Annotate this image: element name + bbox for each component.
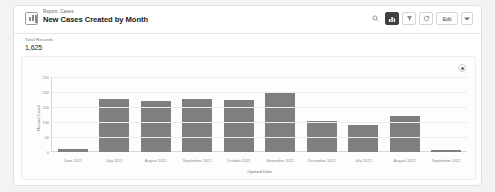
legend-toggle-icon[interactable] — [458, 64, 466, 72]
x-axis-tick-label: December 2021 — [301, 158, 343, 163]
gridline — [52, 122, 467, 123]
y-axis-tick-label: 150 — [43, 105, 50, 110]
chevron-down-icon[interactable] — [461, 12, 473, 25]
bar-cell — [52, 77, 94, 152]
bar-cell — [260, 77, 302, 152]
bar-cell — [426, 77, 468, 152]
bar-cell — [177, 77, 219, 152]
gridline — [52, 92, 467, 93]
header-divider — [14, 33, 481, 34]
gridline — [52, 77, 467, 78]
chart-panel: Record Count 250200150100500 June 2021Ju… — [21, 56, 476, 180]
report-header-actions: Edit — [368, 12, 473, 25]
screenshot-root: Report: Cases New Cases Created by Month — [0, 0, 495, 192]
x-axis-title: Opened Date — [52, 169, 467, 174]
bar[interactable] — [431, 150, 461, 152]
x-axis-tick-label: September 2022 — [426, 158, 468, 163]
title-block: Report: Cases New Cases Created by Month — [43, 10, 148, 24]
y-axis-tick-label: 200 — [43, 90, 50, 95]
total-records-value: 1,625 — [25, 44, 53, 51]
bar[interactable] — [348, 125, 378, 152]
gridline — [52, 137, 467, 138]
y-axis-tick-label: 0 — [47, 150, 49, 155]
bar-cell — [135, 77, 177, 152]
report-card: Report: Cases New Cases Created by Month — [13, 5, 482, 186]
x-axis-tick-label: September 2021 — [177, 158, 219, 163]
x-axis-tick-labels: June 2021July 2021August 2021September 2… — [52, 158, 467, 163]
y-axis-tick-label: 100 — [43, 120, 50, 125]
x-axis-tick-label: July 2021 — [94, 158, 136, 163]
bar[interactable] — [141, 101, 171, 152]
bar-cell — [218, 77, 260, 152]
bar[interactable] — [224, 100, 254, 152]
x-axis-tick-label: August 2022 — [384, 158, 426, 163]
report-header: Report: Cases New Cases Created by Month — [14, 6, 481, 33]
x-axis-tick-label: November 2021 — [260, 158, 302, 163]
edit-button[interactable]: Edit — [436, 12, 458, 25]
y-axis-tick-label: 250 — [43, 75, 50, 80]
bar-cell — [343, 77, 385, 152]
page-title: New Cases Created by Month — [43, 16, 148, 24]
total-records-summary: Total Records 1,625 — [25, 37, 53, 51]
x-axis-tick-label: July 2022 — [343, 158, 385, 163]
plot-area: 250200150100500 — [52, 77, 467, 152]
filter-icon[interactable] — [402, 12, 416, 25]
search-icon[interactable] — [368, 12, 382, 25]
report-header-titles: Report: Cases New Cases Created by Month — [25, 10, 148, 25]
gridline — [52, 107, 467, 108]
refresh-icon[interactable] — [419, 12, 433, 25]
x-axis-tick-label: June 2021 — [52, 158, 94, 163]
bar[interactable] — [58, 149, 88, 152]
x-axis-tick-label: August 2021 — [135, 158, 177, 163]
bar-cell — [384, 77, 426, 152]
bar-cell — [94, 77, 136, 152]
bar-cell — [301, 77, 343, 152]
y-axis-tick-label: 50 — [45, 135, 49, 140]
report-breadcrumb: Report: Cases — [43, 10, 148, 15]
chart-icon[interactable] — [385, 12, 399, 25]
report-icon — [25, 12, 38, 25]
bar-series — [52, 77, 467, 152]
total-records-label: Total Records — [25, 37, 53, 42]
y-axis-title: Record Count — [36, 105, 41, 130]
x-axis-tick-label: October 2021 — [218, 158, 260, 163]
